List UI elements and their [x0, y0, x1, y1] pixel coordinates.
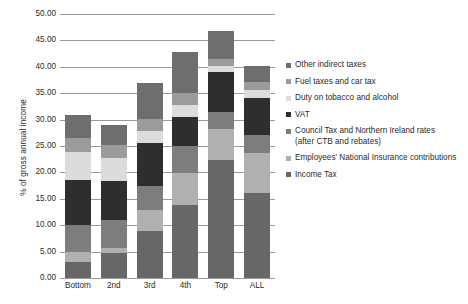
bars-layer [60, 14, 275, 278]
y-axis-tick-labels: 50.0045.0040.0035.0030.0025.0020.0015.00… [20, 0, 56, 304]
bar-segment[interactable] [137, 119, 163, 132]
legend-label: Employees' National Insurance contributi… [295, 153, 456, 164]
stacked-bar-chart: % of gross annual income 50.0045.0040.00… [0, 0, 468, 304]
bar-segment[interactable] [208, 112, 234, 129]
legend-label: Council Tax and Northern Ireland rates (… [295, 126, 435, 147]
bar-segment[interactable] [101, 181, 127, 220]
bar-segment[interactable] [244, 82, 270, 90]
x-tick-label: Bottom [60, 281, 96, 290]
bar-segment[interactable] [244, 135, 270, 153]
legend-item-0[interactable]: Other indirect taxes [286, 60, 466, 71]
y-tick-label: 20.00 [20, 168, 56, 176]
legend-swatch-icon [286, 96, 291, 101]
y-tick-label: 35.00 [20, 89, 56, 97]
bar-segment[interactable] [172, 105, 198, 117]
bar-segment[interactable] [244, 90, 270, 98]
bar-segment[interactable] [244, 98, 270, 135]
x-tick-label: 4th [167, 281, 203, 290]
bar-segment[interactable] [137, 210, 163, 231]
x-tick-label: 2nd [96, 281, 132, 290]
legend-label: Fuel taxes and car tax [295, 77, 376, 88]
legend-swatch-icon [286, 63, 291, 68]
y-tick-label: 10.00 [20, 221, 56, 229]
bar-segment[interactable] [137, 131, 163, 143]
bar-segment[interactable] [101, 158, 127, 181]
bar-segment[interactable] [65, 225, 91, 251]
legend-item-4[interactable]: Council Tax and Northern Ireland rates (… [286, 126, 466, 147]
bar-segment[interactable] [172, 146, 198, 173]
legend-swatch-icon [286, 79, 291, 84]
bar-segment[interactable] [208, 31, 234, 60]
legend: Other indirect taxesFuel taxes and car t… [286, 60, 466, 186]
x-tick-label: ALL [239, 281, 275, 290]
bar-segment[interactable] [101, 220, 127, 248]
x-axis-tick-labels: Bottom2nd3rd4thTopALL [60, 281, 275, 290]
legend-item-5[interactable]: Employees' National Insurance contributi… [286, 153, 466, 164]
y-tick-label: 25.00 [20, 142, 56, 150]
bar-column-4th[interactable] [172, 14, 198, 278]
bar-column-bottom[interactable] [65, 14, 91, 278]
legend-label: Other indirect taxes [295, 60, 366, 71]
bar-segment[interactable] [208, 72, 234, 112]
y-tick-label: 45.00 [20, 36, 56, 44]
legend-swatch-icon [286, 112, 291, 117]
bar-segment[interactable] [65, 152, 91, 180]
bar-segment[interactable] [65, 138, 91, 153]
bar-segment[interactable] [137, 143, 163, 186]
bar-segment[interactable] [172, 93, 198, 105]
bar-column-3rd[interactable] [137, 14, 163, 278]
bar-segment[interactable] [208, 160, 234, 278]
bar-segment[interactable] [208, 129, 234, 160]
gridline [60, 278, 275, 279]
legend-label: Income Tax [295, 170, 337, 181]
legend-item-6[interactable]: Income Tax [286, 170, 466, 181]
legend-swatch-icon [286, 156, 291, 161]
bar-segment[interactable] [65, 115, 91, 137]
bar-column-2nd[interactable] [101, 14, 127, 278]
y-tick-label: 40.00 [20, 63, 56, 71]
bar-segment[interactable] [244, 66, 270, 82]
bar-segment[interactable] [244, 153, 270, 193]
y-tick-label: 5.00 [20, 248, 56, 256]
bar-segment[interactable] [137, 186, 163, 210]
bar-column-top[interactable] [208, 14, 234, 278]
bar-segment[interactable] [65, 262, 91, 278]
bar-segment[interactable] [137, 83, 163, 119]
y-tick-label: 30.00 [20, 116, 56, 124]
bar-segment[interactable] [172, 117, 198, 146]
bar-segment[interactable] [172, 173, 198, 205]
y-tick-label: 50.00 [20, 10, 56, 18]
y-tick-label: 15.00 [20, 195, 56, 203]
bar-segment[interactable] [172, 52, 198, 93]
bar-segment[interactable] [65, 180, 91, 225]
bar-segment[interactable] [65, 252, 91, 263]
legend-item-2[interactable]: Duty on tobacco and alcohol [286, 93, 466, 104]
bar-segment[interactable] [101, 125, 127, 145]
bar-segment[interactable] [172, 205, 198, 278]
bar-segment[interactable] [244, 193, 270, 278]
legend-label: Duty on tobacco and alcohol [295, 93, 398, 104]
legend-swatch-icon [286, 172, 291, 177]
x-tick-label: 3rd [132, 281, 168, 290]
legend-item-1[interactable]: Fuel taxes and car tax [286, 77, 466, 88]
plot-area [60, 14, 275, 278]
x-tick-label: Top [203, 281, 239, 290]
legend-label: VAT [295, 110, 310, 121]
bar-segment[interactable] [101, 145, 127, 158]
bar-column-all[interactable] [244, 14, 270, 278]
y-tick-label: 0.00 [20, 274, 56, 282]
legend-swatch-icon [286, 129, 291, 134]
bar-segment[interactable] [101, 253, 127, 278]
bar-segment[interactable] [137, 231, 163, 278]
legend-item-3[interactable]: VAT [286, 110, 466, 121]
